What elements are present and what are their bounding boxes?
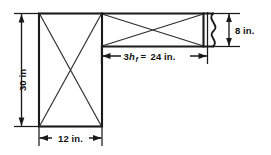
break-line-icon: [211, 14, 215, 47]
diagram-canvas: 30 in 3 h f = 24 in.: [0, 0, 271, 155]
arrowhead-up-web-depth: [19, 14, 25, 23]
arrowhead-down-flange-thickness: [226, 38, 232, 46]
arrowhead-left-web-width: [40, 135, 49, 141]
arrowhead-right-web-width: [93, 135, 102, 141]
label-web-depth: 30 in: [17, 69, 28, 91]
label-flange-equals: =: [141, 51, 147, 62]
label-web-width: 12 in.: [58, 133, 83, 144]
label-flange-thickness: 8 in.: [235, 25, 255, 36]
arrowhead-right-flange-overhang: [199, 53, 208, 59]
arrowhead-up-flange-thickness: [226, 14, 232, 22]
arrowhead-down-web-depth: [19, 118, 25, 127]
cross-section-drawing: 30 in 3 h f = 24 in.: [0, 0, 271, 155]
arrowhead-left-flange-overhang: [102, 53, 111, 59]
label-flange-symbol: h: [129, 51, 135, 62]
label-flange-value: 24 in.: [151, 51, 176, 62]
